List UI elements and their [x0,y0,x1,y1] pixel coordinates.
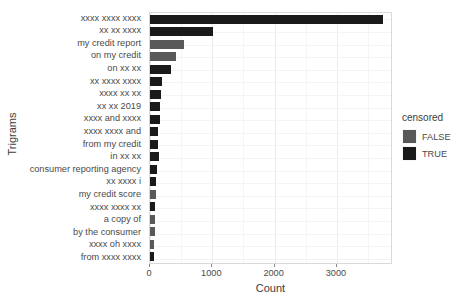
bar [150,227,155,236]
bar [150,90,161,99]
bar-row [150,226,391,239]
bar-row [150,26,391,39]
bar-row [150,63,391,76]
bar-row [150,101,391,114]
legend-label: TRUE [422,149,447,159]
legend-key [402,129,417,144]
x-axis-tickmark [336,264,337,267]
y-axis-tick-labels: xxxx xxxx xxxxxx xx xxxxmy credit report… [14,12,145,264]
x-axis-tick-label: 2000 [263,268,283,278]
x-axis-title: Count [149,282,392,294]
legend-swatch-icon [403,130,416,143]
bar [150,115,160,124]
y-axis-tick-label: by the consumer [14,226,145,239]
bar-series-group [150,13,391,263]
legend-swatch-icon [403,147,416,160]
x-axis-tickmark [211,264,212,267]
bar-row [150,113,391,126]
bar [150,177,156,186]
bar-row [150,176,391,189]
y-axis-tick-label: in xx xx [14,151,145,164]
bar [150,40,184,49]
y-axis-tick-label: xx xxxx i [14,176,145,189]
bar-row [150,126,391,139]
bar-row [150,88,391,101]
bar-row [150,76,391,89]
bar [150,77,162,86]
legend-title: censored [402,112,466,123]
bar [150,27,213,36]
bar-row [150,151,391,164]
bar [150,190,156,199]
y-axis-tick-label: xxxx xxxx xx [14,201,145,214]
x-axis-tick-label: 1000 [201,268,221,278]
x-axis-tick-labels: 0100020003000 [149,264,392,280]
bar [150,127,158,136]
y-axis-tick-label: on xx xx [14,62,145,75]
legend: censored FALSETRUE [402,112,466,163]
bar-row [150,163,391,176]
bar-row [150,51,391,64]
bar [150,240,154,249]
plot-panel [149,12,392,264]
y-axis-tick-label: my credit score [14,188,145,201]
y-axis-tick-label: xxxx xxxx xxxx [14,12,145,25]
x-axis-tick-label: 0 [146,268,151,278]
x-axis-tickmark [149,264,150,267]
x-axis-tickmark [274,264,275,267]
y-axis-tick-label: xxxx and xxxx [14,113,145,126]
bar [150,15,383,24]
y-axis-tick-label: from my credit [14,138,145,151]
bar-row [150,188,391,201]
bar [150,52,176,61]
y-axis-tick-label: a copy of [14,214,145,227]
bar [150,202,155,211]
bar [150,152,159,161]
bar-row [150,201,391,214]
y-axis-tick-label: on my credit [14,50,145,63]
bar-row [150,213,391,226]
y-axis-tick-label: xx xxxx xxxx [14,75,145,88]
legend-label: FALSE [422,132,451,142]
bar-row [150,138,391,151]
bar [150,165,157,174]
y-axis-tick-label: xxxx xx xx [14,88,145,101]
y-axis-tick-label: xxxx xxxx and [14,125,145,138]
bar [150,252,154,261]
bar-row [150,238,391,251]
bar [150,215,155,224]
bar [150,65,171,74]
x-axis-tick-label: 3000 [326,268,346,278]
bar-row [150,38,391,51]
y-axis-tick-label: xx xx xxxx [14,25,145,38]
bar [150,102,160,111]
y-axis-tick-label: xxxx oh xxxx [14,239,145,252]
bar-row [150,13,391,26]
bar [150,140,158,149]
legend-item-true: TRUE [402,146,466,161]
y-axis-tick-label: consumer reporting agency [14,163,145,176]
y-axis-tick-label: xx xx 2019 [14,100,145,113]
y-axis-tick-label: from xxxx xxxx [14,251,145,264]
legend-items: FALSETRUE [402,129,466,161]
y-axis-tick-label: my credit report [14,37,145,50]
legend-key [402,146,417,161]
bar-row [150,251,391,264]
legend-item-false: FALSE [402,129,466,144]
bar-chart: Trigrams xxxx xxxx xxxxxx xx xxxxmy cred… [0,0,467,304]
